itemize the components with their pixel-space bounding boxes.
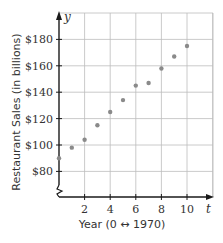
data-point [121,98,125,102]
x-variable-label: t [206,202,211,216]
data-point [95,123,99,127]
y-tick-label: $140 [25,86,53,99]
scatter-chart: $80$100$120$140$160$180246810 Restaurant… [0,0,223,243]
data-point [108,110,112,114]
data-point [70,145,74,149]
x-tick-label: 8 [158,203,165,216]
data-point [185,44,189,48]
data-point [172,54,176,58]
x-tick-label: 10 [180,203,194,216]
data-point [57,156,61,160]
x-tick-label: 6 [132,203,139,216]
y-tick-label: $80 [32,165,53,178]
data-point [146,81,150,85]
grid-lines [59,13,213,197]
data-point [134,83,138,87]
axis-break-icon [57,185,62,197]
data-point [159,66,163,70]
tick-labels: $80$100$120$140$160$180246810 [25,33,194,216]
x-tick-label: 4 [107,203,114,216]
data-point [82,138,86,142]
x-tick-label: 2 [81,203,88,216]
y-tick-label: $180 [25,33,53,46]
y-variable-label: y [63,10,71,24]
x-axis-title: Year (0 ↔ 1970) [78,218,166,231]
y-tick-label: $100 [25,139,53,152]
y-axis-title: Restaurant Sales (in billions) [10,33,23,190]
data-points [57,44,189,161]
y-axis-arrow-icon [56,11,62,20]
y-tick-label: $120 [25,113,53,126]
y-tick-label: $160 [25,60,53,73]
